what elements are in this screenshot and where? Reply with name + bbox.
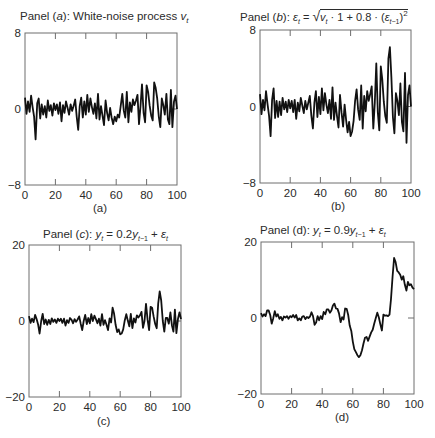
x-tick-label: 20 <box>285 398 298 410</box>
x-tick-label: 100 <box>404 398 423 410</box>
x-tick-label: 60 <box>344 187 357 199</box>
x-tick-label: 40 <box>79 189 92 201</box>
y-tick-label: 0 <box>250 101 256 113</box>
x-tick-label: 20 <box>284 187 297 199</box>
series-line <box>25 82 177 139</box>
x-tick-label: 0 <box>22 189 28 201</box>
chart-canvas: 020406080100−808020406080100−80802040608… <box>0 0 435 438</box>
series-line <box>261 258 414 357</box>
plot-a: 020406080100−808 <box>8 27 187 201</box>
x-tick-label: 60 <box>346 398 359 410</box>
y-tick-label: −8 <box>243 177 256 189</box>
x-tick-label: 0 <box>26 401 32 413</box>
y-tick-label: 20 <box>12 239 25 251</box>
y-tick-label: 8 <box>250 24 256 36</box>
y-tick-label: −20 <box>5 391 25 403</box>
x-tick-label: 20 <box>49 189 62 201</box>
y-tick-label: 8 <box>15 27 21 39</box>
plot-b: 020406080100−808 <box>243 24 421 199</box>
x-tick-label: 80 <box>144 401 157 413</box>
x-tick-label: 60 <box>110 189 123 201</box>
x-tick-label: 100 <box>167 189 186 201</box>
x-tick-label: 100 <box>171 401 190 413</box>
x-tick-label: 80 <box>377 398 390 410</box>
x-tick-label: 80 <box>374 187 387 199</box>
y-tick-label: 0 <box>15 103 21 115</box>
x-tick-label: 40 <box>314 187 327 199</box>
x-tick-label: 0 <box>258 398 264 410</box>
x-tick-label: 60 <box>114 401 127 413</box>
series-line <box>260 47 411 143</box>
plot-c: 020406080100−20020 <box>5 239 190 413</box>
series-line <box>29 291 181 334</box>
y-tick-label: −20 <box>237 388 257 400</box>
x-tick-label: 0 <box>257 187 263 199</box>
x-tick-label: 40 <box>316 398 329 410</box>
y-tick-label: −8 <box>8 179 21 191</box>
y-tick-label: 0 <box>251 312 257 324</box>
y-tick-label: 0 <box>19 315 25 327</box>
x-tick-label: 40 <box>83 401 96 413</box>
y-tick-label: 20 <box>244 236 257 248</box>
x-tick-label: 20 <box>53 401 66 413</box>
x-tick-label: 80 <box>140 189 153 201</box>
x-tick-label: 100 <box>401 187 420 199</box>
plot-d: 020406080100−20020 <box>237 236 423 410</box>
